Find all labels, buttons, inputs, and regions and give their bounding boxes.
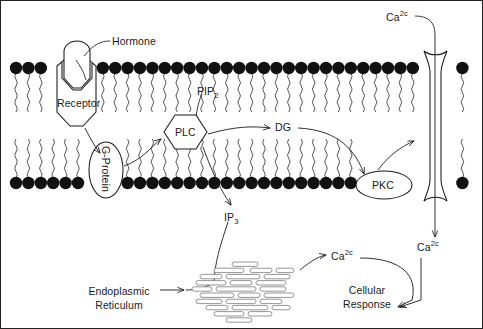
calcium-in-leader: [415, 16, 435, 34]
endoplasmic-reticulum-shape: [192, 262, 294, 322]
cellular-response-line2: Response: [336, 298, 398, 310]
signaling-pathway-diagram: Hormone Receptor G-Protein PLC PIP2 DG I…: [0, 0, 483, 329]
hormone-shape: [64, 41, 90, 88]
calcium-intracellular-label: Ca2c: [417, 239, 439, 253]
arrow-er-to-calcium: [300, 255, 326, 270]
calcium-extracellular-label: Ca2c: [386, 9, 408, 23]
calcium-channel-shape: [424, 51, 447, 201]
receptor-label: Receptor: [57, 97, 100, 109]
arrow-to-dg: [208, 127, 270, 134]
g-protein-label: G-Protein: [100, 146, 112, 194]
calcium-released-label: Ca2c: [331, 248, 353, 262]
arrow-channel-calcium-to-response: [400, 258, 421, 307]
arrow-receptor-to-gprotein: [85, 128, 100, 153]
dg-label: DG: [275, 121, 291, 133]
arrow-to-ip3: [203, 147, 231, 205]
arrow-dg-to-pkc: [298, 128, 364, 174]
cellular-response-line1: Cellular: [336, 284, 398, 296]
diagram-canvas: [0, 0, 483, 329]
plc-label: PLC: [175, 126, 196, 138]
pkc-label: PKC: [372, 179, 394, 191]
arrow-pkc-to-channel: [378, 141, 414, 170]
er-label-line2: Reticulum: [79, 299, 159, 311]
arrow-gprotein-to-plc: [124, 139, 161, 166]
ip3-label: IP3: [224, 211, 238, 226]
hormone-label: Hormone: [112, 35, 156, 47]
pip2-label: PIP2: [197, 85, 219, 100]
er-label-line1: Endoplasmic: [79, 285, 159, 297]
